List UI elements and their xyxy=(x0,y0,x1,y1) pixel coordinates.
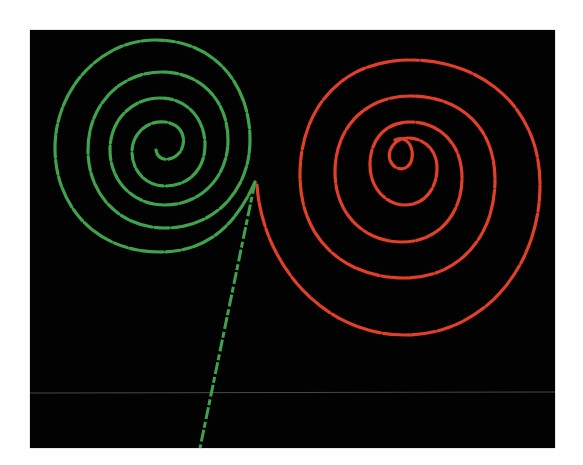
horizontal-reference-line xyxy=(30,392,555,393)
green-straight-track xyxy=(200,182,255,448)
green-spiral-track xyxy=(55,40,255,252)
particle-tracks xyxy=(0,0,583,465)
red-spiral-track xyxy=(257,60,540,335)
show-through-text-bottom xyxy=(40,446,540,465)
